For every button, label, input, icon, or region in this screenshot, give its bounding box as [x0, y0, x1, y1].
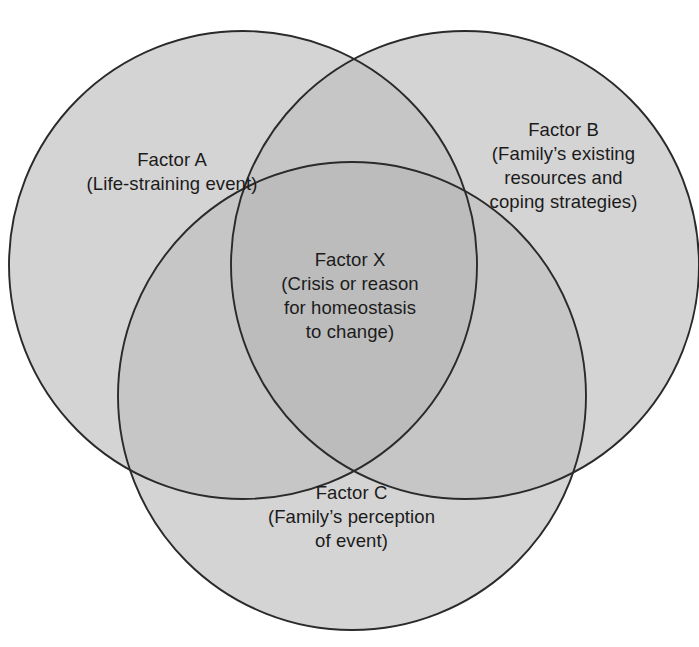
label-factor-a-line-2: (Life-straining event) [37, 172, 307, 196]
label-factor-a-line-1: Factor A [37, 148, 307, 172]
label-factor-x-line-1: Factor X [253, 248, 447, 272]
label-factor-c-line-2: (Family’s perception [241, 505, 462, 529]
label-factor-b-line-3: resources and [456, 166, 671, 190]
label-factor-x-line-3: for homeostasis [253, 296, 447, 320]
label-factor-x-line-2: (Crisis or reason [253, 272, 447, 296]
label-factor-b-line-1: Factor B [456, 118, 671, 142]
label-factor-b: Factor B (Family’s existing resources an… [456, 118, 671, 214]
venn-diagram: Factor A (Life-straining event) Factor B… [0, 0, 699, 647]
label-factor-c-line-1: Factor C [241, 481, 462, 505]
label-factor-b-line-2: (Family’s existing [456, 142, 671, 166]
label-factor-x-line-4: to change) [253, 320, 447, 344]
label-factor-c: Factor C (Family’s perception of event) [241, 481, 462, 553]
label-factor-c-line-3: of event) [241, 529, 462, 553]
label-factor-x: Factor X (Crisis or reason for homeostas… [253, 248, 447, 344]
label-factor-a: Factor A (Life-straining event) [37, 148, 307, 196]
label-factor-b-line-4: coping strategies) [456, 190, 671, 214]
